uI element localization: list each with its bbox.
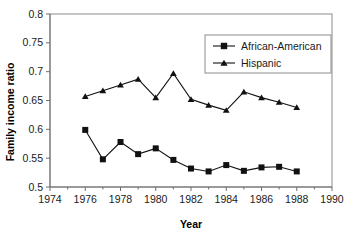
series-marker-square xyxy=(188,166,194,172)
y-tick-label: 0.55 xyxy=(23,152,44,164)
series-marker-square xyxy=(241,168,247,174)
y-tick-label: 0.8 xyxy=(28,8,43,20)
x-axis-tick-labels: 197419761978198019821984198619881990 xyxy=(38,193,344,205)
x-tick-label: 1986 xyxy=(250,193,274,205)
y-tick-label: 0.7 xyxy=(28,65,43,77)
series-marker-square xyxy=(206,168,212,174)
legend-item-label: Hispanic xyxy=(241,57,281,69)
y-tick-label: 0.5 xyxy=(28,181,43,193)
x-tick-label: 1980 xyxy=(144,193,168,205)
x-axis-title: Year xyxy=(180,218,202,230)
series-marker-square xyxy=(153,145,159,151)
y-tick-label: 0.6 xyxy=(28,123,43,135)
y-axis-title: Family income ratio xyxy=(4,63,16,162)
x-tick-label: 1988 xyxy=(285,193,309,205)
x-tick-label: 1990 xyxy=(320,193,344,205)
chart-container: 0.50.550.60.650.70.750.8 197419761978198… xyxy=(0,0,356,240)
legend-item-label: African-American xyxy=(241,40,322,52)
series-marker-square xyxy=(170,157,176,163)
family-income-ratio-line-chart: 0.50.550.60.650.70.750.8 197419761978198… xyxy=(0,0,356,240)
series-marker-square xyxy=(135,151,141,157)
series-marker-square xyxy=(118,139,124,145)
series-marker-square xyxy=(294,168,300,174)
series-marker-square xyxy=(221,43,227,49)
series-marker-square xyxy=(100,156,106,162)
x-tick-label: 1982 xyxy=(179,193,203,205)
x-tick-label: 1976 xyxy=(74,193,98,205)
x-tick-label: 1978 xyxy=(109,193,133,205)
y-tick-label: 0.75 xyxy=(23,36,44,48)
series-marker-square xyxy=(259,164,265,170)
series-marker-square xyxy=(82,127,88,133)
x-tick-label: 1974 xyxy=(38,193,62,205)
chart-legend: African-AmericanHispanic xyxy=(205,35,331,73)
x-tick-label: 1984 xyxy=(215,193,239,205)
y-tick-label: 0.65 xyxy=(23,94,44,106)
series-marker-square xyxy=(276,164,282,170)
series-marker-square xyxy=(223,162,229,168)
